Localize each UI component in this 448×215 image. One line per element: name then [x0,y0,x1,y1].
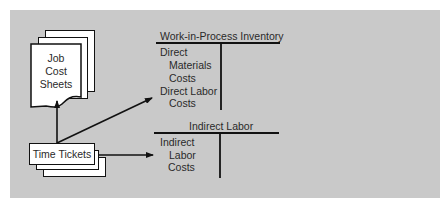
indirect-labor-debit-line-3: Costs [168,161,195,173]
wip-debit-line-3: Costs [169,72,196,84]
indirect-labor-debit-line-2: Labor [169,149,196,161]
indirect-labor-account-title: Indirect Labor [189,120,253,132]
indirect-labor-debit-line-1: Indirect [160,136,194,148]
wip-account-title: Work-in-Process Inventory [160,30,284,42]
wip-debit-line-4: Direct Labor [160,85,217,97]
wip-debit-line-5: Costs [169,97,196,109]
arrow-to-wip-inventory [57,98,152,143]
wip-debit-line-1: Direct [160,46,187,58]
wip-debit-line-2: Materials [169,59,212,71]
